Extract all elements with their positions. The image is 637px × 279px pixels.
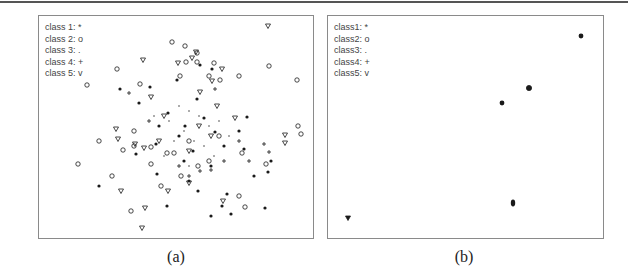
legend-a: class 1: * class 2: o class 3: . class 4… (45, 22, 83, 80)
legend-b: class1: * class2: o class3: . class4: + … (334, 22, 370, 80)
data-point (252, 174, 255, 177)
data-point (178, 105, 179, 106)
data-point (162, 114, 167, 119)
data-point (209, 168, 213, 172)
data-point (247, 159, 251, 163)
data-point (165, 204, 168, 207)
data-point (233, 116, 238, 121)
data-point (217, 134, 221, 138)
data-point (121, 148, 125, 152)
data-point (229, 212, 232, 215)
scatter-panel-a: class 1: * class 2: o class 3: . class 4… (38, 15, 314, 239)
legend-entry-class-3: class3: . (334, 45, 370, 57)
data-point (166, 189, 171, 194)
data-point (127, 91, 131, 95)
data-point (142, 146, 147, 151)
data-point (218, 120, 219, 121)
data-point (210, 79, 215, 84)
legend-entry-class-4: class4: + (334, 57, 370, 69)
top-rule (0, 1, 628, 3)
data-point (207, 159, 211, 163)
data-point (198, 90, 203, 95)
data-point (198, 115, 199, 116)
data-point (228, 135, 229, 136)
data-point (266, 170, 269, 173)
data-point (213, 130, 216, 133)
data-point (237, 139, 241, 143)
data-point (97, 184, 100, 187)
data-point (202, 116, 205, 119)
data-point (115, 67, 119, 71)
data-point (187, 149, 192, 154)
data-point (225, 192, 228, 195)
data-point (283, 141, 288, 146)
data-point (198, 63, 201, 66)
caption-a: (a) (146, 248, 206, 266)
data-point (266, 24, 271, 29)
caption-b: (b) (434, 248, 494, 266)
data-point (198, 169, 202, 173)
data-point (138, 82, 142, 86)
data-point (141, 58, 146, 63)
data-point (212, 61, 216, 65)
data-point (511, 200, 515, 207)
data-point (143, 206, 148, 211)
data-point (163, 155, 164, 156)
data-point (215, 104, 220, 109)
legend-entry-class-5: class5: v (334, 68, 370, 80)
data-point (132, 129, 136, 133)
data-point (149, 145, 153, 149)
legend-entry-class-3: class 3: . (45, 45, 83, 57)
data-point (159, 184, 163, 188)
data-point (168, 120, 169, 121)
data-point (195, 97, 198, 100)
data-point (183, 44, 187, 48)
data-point (119, 189, 124, 194)
data-point (193, 140, 194, 141)
data-point (147, 119, 151, 123)
data-point (221, 199, 226, 204)
data-point (209, 164, 212, 167)
data-point (213, 155, 214, 156)
data-point (116, 137, 121, 142)
data-point (176, 61, 181, 66)
data-point (243, 205, 247, 209)
data-point (296, 124, 300, 128)
data-point (187, 174, 191, 178)
data-point (190, 56, 195, 61)
data-point (267, 64, 271, 68)
data-point (182, 159, 185, 162)
data-point (183, 130, 184, 131)
legend-entry-class-1: class 1: * (45, 22, 83, 34)
data-point (283, 133, 288, 138)
data-point (195, 60, 199, 64)
data-point (85, 83, 89, 87)
data-point (114, 127, 119, 132)
data-point (210, 67, 213, 70)
data-point (220, 67, 225, 72)
data-point (209, 134, 214, 139)
data-point (267, 150, 271, 154)
data-point (172, 151, 176, 155)
data-point (208, 125, 209, 126)
data-point (148, 85, 151, 88)
data-point (118, 87, 121, 90)
data-point (170, 40, 174, 44)
legend-entry-class-2: class2: o (334, 34, 370, 46)
data-point (191, 149, 194, 152)
data-point (153, 115, 154, 116)
data-point (295, 78, 299, 82)
data-point (155, 172, 158, 175)
data-point (207, 74, 211, 78)
data-point (157, 139, 162, 144)
data-point (209, 214, 212, 217)
data-point (154, 142, 157, 145)
data-point (149, 162, 153, 166)
data-point (179, 174, 183, 178)
data-point (76, 162, 80, 166)
data-point (579, 34, 584, 39)
data-point (245, 115, 248, 118)
data-point (213, 87, 217, 91)
data-point (196, 189, 199, 192)
data-point (157, 124, 160, 127)
